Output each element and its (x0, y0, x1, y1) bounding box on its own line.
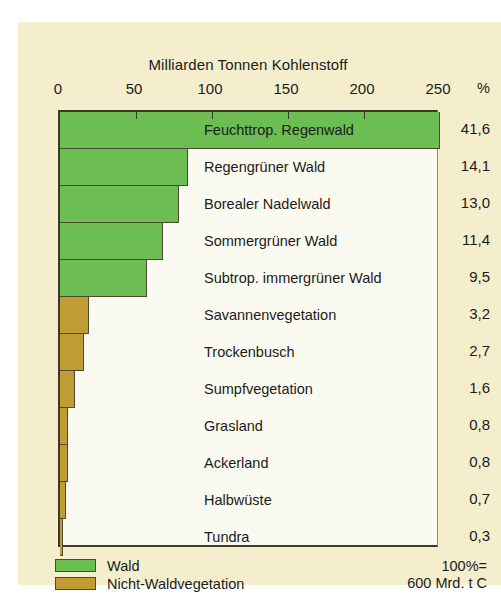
chart-row: Halbwüste (60, 482, 437, 519)
bar-5 (60, 260, 147, 297)
x-tick-label-150: 150 (273, 80, 298, 97)
bar-label: Halbwüste (204, 482, 272, 519)
percent-value: 0,3 (442, 517, 490, 554)
chart-row: Subtrop. immergrüner Wald (60, 260, 437, 297)
legend-swatch-nicht (55, 577, 96, 590)
bar-label: Savannenvegetation (204, 297, 336, 334)
bar-label: Feuchttrop. Regenwald (204, 112, 354, 149)
x-tick-label-100: 100 (197, 80, 222, 97)
legend-item: Nicht-Waldvegetation (55, 576, 355, 592)
percent-value: 3,2 (442, 295, 490, 332)
legend-item: Wald (55, 558, 355, 574)
percent-value: 2,7 (442, 332, 490, 369)
percent-value: 14,1 (442, 147, 490, 184)
bar-label: Sommergrüner Wald (204, 223, 337, 260)
chart-row: Ackerland (60, 445, 437, 482)
percent-column-header: % (442, 80, 490, 96)
percent-value: 11,4 (442, 221, 490, 258)
x-tick-label-200: 200 (349, 80, 374, 97)
percent-value: 13,0 (442, 184, 490, 221)
percent-value: 0,8 (442, 406, 490, 443)
bar-label: Grasland (204, 408, 263, 445)
axis-tick-200 (364, 112, 365, 119)
legend-label: Wald (107, 558, 140, 574)
chart-title: Milliarden Tonnen Kohlenstoff (58, 56, 438, 73)
percent-value: 1,6 (442, 369, 490, 406)
bar-rows: Feuchttrop. RegenwaldRegengrüner WaldBor… (60, 112, 437, 545)
chart-row: Grasland (60, 408, 437, 445)
chart-row: Savannenvegetation (60, 297, 437, 334)
legend-label: Nicht-Waldvegetation (107, 576, 244, 592)
chart-row: Regengrüner Wald (60, 149, 437, 186)
bar-7 (60, 334, 84, 371)
bar-10 (60, 445, 68, 482)
chart-card: Milliarden Tonnen Kohlenstoff 0501001502… (18, 22, 501, 585)
bar-label: Ackerland (204, 445, 268, 482)
bar-label: Regengrüner Wald (204, 149, 325, 186)
x-axis-tick-labels: 050100150200250 (18, 80, 501, 100)
chart-row: Trockenbusch (60, 334, 437, 371)
bar-11 (60, 482, 66, 519)
bar-label: Borealer Nadelwald (204, 186, 331, 223)
bar-6 (60, 297, 89, 334)
bar-9 (60, 408, 68, 445)
chart-row: Feuchttrop. Regenwald (60, 112, 437, 149)
percent-value: 0,8 (442, 443, 490, 480)
x-tick-label-50: 50 (126, 80, 143, 97)
plot-area: Feuchttrop. RegenwaldRegengrüner WaldBor… (58, 110, 438, 547)
percent-value: 41,6 (442, 110, 490, 147)
bar-label: Tundra (204, 519, 249, 556)
bar-12 (60, 519, 63, 556)
chart-legend: WaldNicht-Waldvegetation (55, 558, 355, 594)
x-tick-label-0: 0 (54, 80, 62, 97)
bar-8 (60, 371, 75, 408)
axis-tick-50 (136, 112, 137, 119)
chart-row: Borealer Nadelwald (60, 186, 437, 223)
bar-4 (60, 223, 163, 260)
chart-row: Sommergrüner Wald (60, 223, 437, 260)
percent-value: 9,5 (442, 258, 490, 295)
axis-tick-150 (288, 112, 289, 119)
total-annotation: 100%= 600 Mrd. t C (407, 558, 487, 592)
bar-3 (60, 186, 179, 223)
percent-value: 0,7 (442, 480, 490, 517)
chart-row: Sumpfvegetation (60, 371, 437, 408)
bar-2 (60, 149, 188, 186)
total-line-2: 600 Mrd. t C (407, 575, 487, 592)
legend-swatch-wald (55, 559, 96, 572)
total-line-1: 100%= (407, 558, 487, 575)
axis-tick-100 (212, 112, 213, 119)
bar-label: Subtrop. immergrüner Wald (204, 260, 382, 297)
bar-label: Sumpfvegetation (204, 371, 313, 408)
bar-label: Trockenbusch (204, 334, 295, 371)
chart-row: Tundra (60, 519, 437, 556)
